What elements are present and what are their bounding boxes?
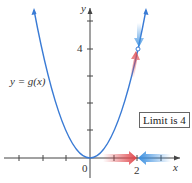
x-axis-arrow-icon <box>174 156 180 161</box>
function-label: y = g(x) <box>10 75 46 87</box>
hole-point <box>136 47 140 51</box>
limit-annotation: Limit is 4 <box>139 112 190 128</box>
origin-label: 0 <box>82 162 88 174</box>
y-axis <box>87 8 93 178</box>
y-axis-arrow-icon <box>88 8 93 14</box>
graph <box>0 0 192 183</box>
x-tick-label-2: 2 <box>134 164 140 176</box>
y-tick-label-4: 4 <box>77 42 83 54</box>
x-axis-label: x <box>173 161 178 173</box>
red-curve-approach-arrow-icon <box>130 51 140 78</box>
curve-arrow-left-icon <box>32 8 37 15</box>
right-approach-arrow-icon <box>103 151 137 165</box>
left-approach-arrow-icon <box>138 151 171 165</box>
curve-arrow-right-icon <box>144 8 149 15</box>
y-axis-label: y <box>81 2 86 14</box>
